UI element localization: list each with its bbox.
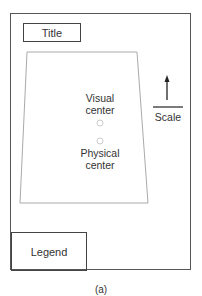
scale-label: Scale [150,111,186,123]
physical-center-label: Physical center [68,147,132,171]
physical-label-line1: Physical [68,147,132,159]
visual-label-line2: center [70,104,130,116]
physical-center-marker [97,138,103,144]
figure-caption: (a) [88,284,114,295]
legend-text: Legend [31,246,68,258]
visual-center-label: Visual center [70,92,130,116]
map-trapezoid [20,52,148,203]
visual-center-marker [97,120,103,126]
north-arrow-icon [165,75,170,100]
legend-box: Legend [11,232,87,271]
visual-label-line1: Visual [70,92,130,104]
physical-label-line2: center [68,159,132,171]
